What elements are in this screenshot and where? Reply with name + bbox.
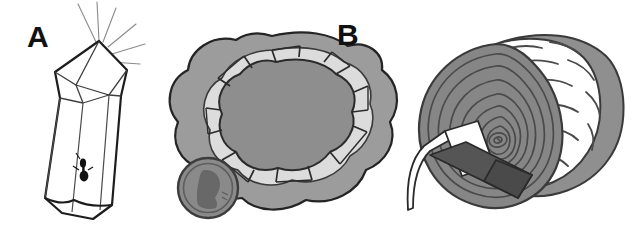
figure-canvas: A [0, 0, 636, 240]
panel-c: C [400, 0, 636, 240]
panel-a: A [0, 0, 170, 240]
scale-coin [178, 158, 238, 218]
coin-profile-silhouette [197, 170, 220, 209]
panel-b-label: B [337, 20, 359, 50]
panel-b: B [160, 0, 410, 240]
crystal-body [45, 41, 127, 219]
panel-a-label: A [27, 22, 49, 52]
